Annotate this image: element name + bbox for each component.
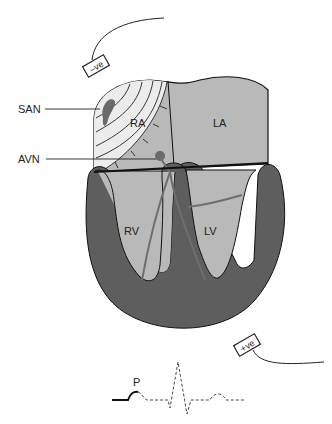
label-avn: AVN xyxy=(18,153,40,165)
ecg-trace: P xyxy=(112,362,246,414)
label-rv: RV xyxy=(124,225,140,237)
positive-electrode-wire xyxy=(253,350,324,364)
ecg-qrs-t-dashed xyxy=(138,362,246,414)
negative-electrode-wire xyxy=(92,18,164,60)
label-ra: RA xyxy=(130,117,146,129)
label-san: SAN xyxy=(18,103,41,115)
label-p-wave: P xyxy=(133,376,140,388)
label-la: LA xyxy=(213,117,227,129)
negative-electrode: –ve xyxy=(83,55,110,77)
positive-electrode: +ve xyxy=(234,334,261,356)
ecg-p-wave-solid xyxy=(112,392,138,400)
heart-conduction-diagram: –ve RA LA RV LV xyxy=(0,0,332,424)
label-lv: LV xyxy=(204,225,217,237)
